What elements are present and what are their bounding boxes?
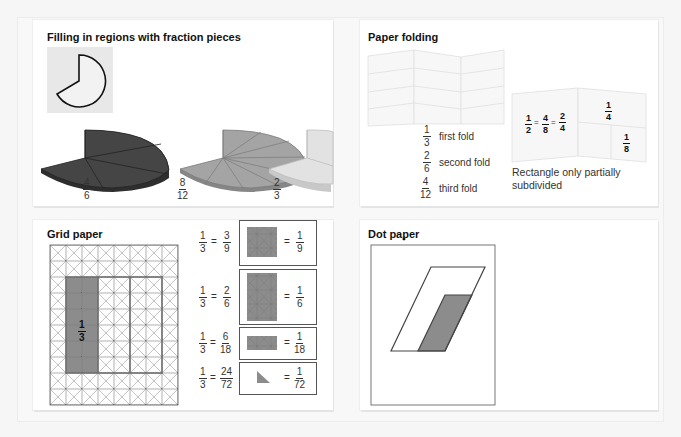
panel-grid-paper: Grid paper — [33, 220, 333, 410]
partial-fraction-4-8: 4 8 — [542, 114, 549, 135]
equals-sign: = — [210, 337, 216, 348]
fraction-label-8-12: 8 12 — [177, 178, 188, 201]
fold-fraction-2-6: 2 6 — [423, 151, 431, 174]
eq-row3-left: 1 3 — [199, 332, 207, 355]
equals-sign: = — [284, 291, 290, 302]
grid-8x10 — [50, 245, 178, 405]
equals-sign: = — [284, 337, 290, 348]
fold-fraction-1-3: 1 3 — [423, 125, 431, 148]
eq-row2-unit: 1 6 — [296, 286, 304, 309]
dot-paper-illustration — [360, 220, 658, 410]
panel-paper-folding: Paper folding 1 3 first fold 2 6 second … — [360, 20, 658, 206]
equivalence-box-eighteenths — [239, 327, 317, 360]
quarter-label: 1 4 — [605, 101, 612, 122]
eq-row1-equiv: 3 9 — [223, 231, 231, 254]
panel-dot-paper: Dot paper — [360, 220, 658, 410]
eq-row3-equiv: 6 18 — [220, 332, 231, 355]
partial-fraction-1-2: 1 2 — [525, 114, 532, 135]
equivalence-box-seventy-seconds — [239, 362, 317, 395]
folded-paper-thirds — [368, 50, 504, 126]
fraction-label-4-6: 4 6 — [83, 178, 91, 201]
eq-row4-unit: 1 72 — [294, 367, 305, 390]
dots-drawn — [403, 238, 406, 241]
equals-sign: = — [534, 118, 539, 127]
eq-row3-unit: 1 18 — [294, 332, 305, 355]
fold-label-third: third fold — [439, 183, 477, 194]
partial-fraction-2-4: 2 4 — [559, 112, 566, 133]
region-fraction-1-3: 1 3 — [78, 320, 86, 343]
equals-sign: = — [284, 372, 290, 383]
panel-fraction-pieces: Filling in regions with fraction pieces — [33, 20, 333, 206]
eq-row4-equiv: 24 72 — [220, 367, 233, 390]
fold-label-second: second fold — [439, 157, 490, 168]
eq-row2-equiv: 2 6 — [223, 286, 231, 309]
dark-pie-piece-4-6 — [41, 130, 169, 192]
equals-sign: = — [284, 236, 290, 247]
equals-sign: = — [211, 291, 217, 302]
eq-row4-left: 1 3 — [199, 367, 207, 390]
eq-row2-left: 1 3 — [199, 286, 207, 309]
equivalence-box-ninths — [239, 220, 317, 266]
eq-row1-unit: 1 9 — [296, 231, 304, 254]
paper-folding-illustration — [360, 20, 658, 206]
partial-caption-line1: Rectangle only partially — [512, 166, 621, 178]
equals-sign: = — [211, 236, 217, 247]
equals-sign: = — [551, 118, 556, 127]
fraction-label-2-3: 2 3 — [273, 178, 281, 201]
equivalence-box-sixths — [239, 269, 317, 325]
fold-fraction-4-12: 4 12 — [420, 177, 431, 200]
eq-row1-left: 1 3 — [199, 231, 207, 254]
equals-sign: = — [210, 372, 216, 383]
partial-caption-line2: subdivided — [512, 179, 562, 191]
eighth-label: 1 8 — [623, 133, 630, 154]
fold-label-first: first fold — [439, 131, 474, 142]
